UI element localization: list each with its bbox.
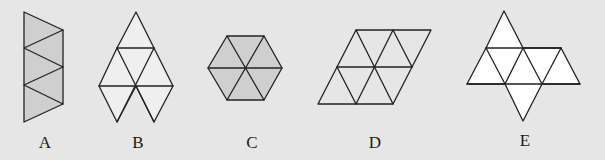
figure-e-label: E [520,131,530,150]
figure-a-label: A [39,133,52,152]
figure-b-label: B [132,133,143,152]
figure-d-label: D [369,133,381,152]
figure-c: C [208,36,282,152]
figure-d-diag-2 [337,67,356,104]
figure-d-diag-4 [393,30,412,67]
figure-e-fill [467,11,580,121]
figure-c-label: C [246,133,257,152]
figure-b-fill [99,12,173,122]
figures-diagram: A B C D E [0,0,605,160]
figure-e: E [467,11,580,150]
figure-a-fill [24,12,63,122]
figure-d: D [318,30,431,152]
figure-b: B [99,12,173,152]
figure-a: A [24,12,63,152]
